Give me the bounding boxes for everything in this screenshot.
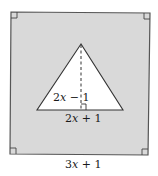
base-label: 2x + 1 <box>65 112 101 125</box>
height-label: 2x − 1 <box>53 91 89 104</box>
square-side-label: 3x + 1 <box>65 158 101 171</box>
diagram-canvas: 2x − 1 2x + 1 3x + 1 <box>0 0 158 176</box>
